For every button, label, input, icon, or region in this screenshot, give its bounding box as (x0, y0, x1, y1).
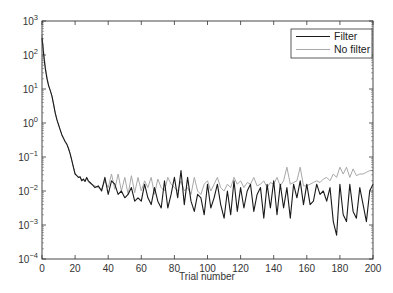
y-tick-label: 10−4 (18, 251, 38, 265)
x-axis-label: Trial number (179, 271, 235, 282)
x-tick-label: 160 (298, 263, 315, 274)
x-axis-ticks: 020406080100120140160180200 (39, 21, 382, 274)
x-tick-label: 200 (365, 263, 382, 274)
x-tick-label: 0 (39, 263, 45, 274)
x-tick-label: 180 (332, 263, 349, 274)
y-tick-label: 10−1 (18, 149, 38, 163)
series-line-no-filter (42, 35, 373, 195)
y-tick-label: 102 (23, 47, 38, 61)
x-tick-label: 20 (70, 263, 82, 274)
legend-label-no-filter: No filter (334, 43, 371, 55)
y-tick-label: 10−2 (18, 183, 38, 197)
y-tick-label: 101 (23, 81, 38, 95)
x-tick-label: 40 (103, 263, 115, 274)
x-tick-label: 140 (265, 263, 282, 274)
line-chart: 10−410−310−210−1100101102103 02040608010… (0, 0, 393, 293)
x-tick-label: 60 (136, 263, 148, 274)
y-tick-label: 100 (23, 115, 38, 129)
y-tick-label: 103 (23, 13, 38, 27)
y-tick-label: 10−3 (18, 217, 38, 231)
series-line-filter (42, 38, 373, 235)
series-layer (42, 35, 373, 236)
legend: Filter No filter (291, 29, 372, 58)
legend-label-filter: Filter (334, 30, 358, 42)
